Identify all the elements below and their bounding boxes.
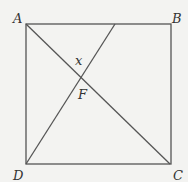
diagram-canvas: A B C D x F [0,0,188,182]
label-c: C [173,168,183,182]
diagonal-ac [26,24,170,164]
label-x: x [75,53,83,68]
label-f: F [77,87,88,102]
label-a: A [12,11,22,26]
label-b: B [171,11,182,26]
label-d: D [12,168,24,182]
segment-d-to-ab [26,24,115,164]
geometry-diagram: A B C D x F [0,0,188,182]
